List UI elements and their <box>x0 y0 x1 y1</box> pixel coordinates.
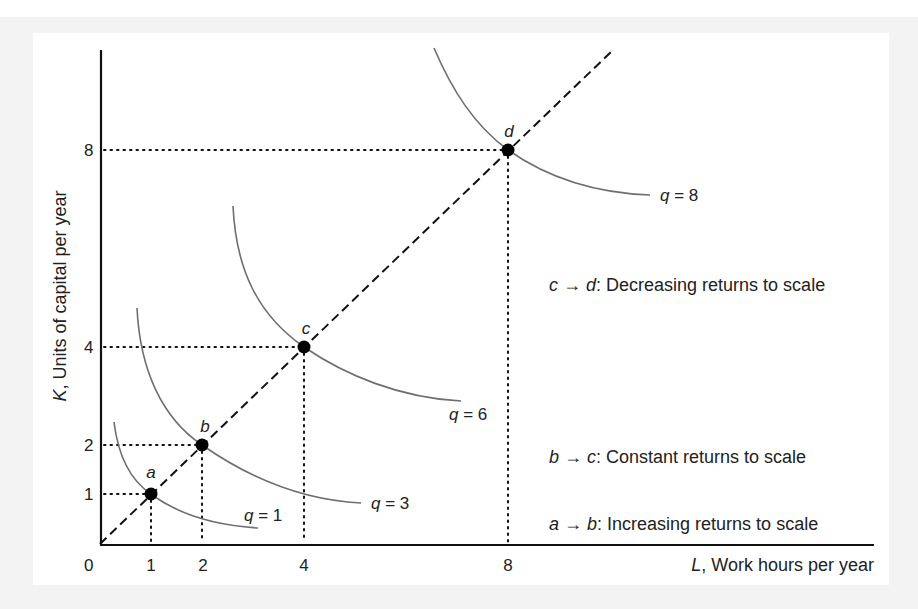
point-label-b: b <box>200 417 209 436</box>
x-tick-4: 4 <box>299 556 308 575</box>
point-d <box>502 144 515 157</box>
y-axis-title: K, Units of capital per year <box>50 190 70 401</box>
point-label-c: c <box>302 319 311 338</box>
axes <box>100 50 874 545</box>
point-a <box>145 488 158 501</box>
point-b <box>196 439 209 452</box>
isoquant-q1 <box>114 422 258 528</box>
x-axis-title: L, Work hours per year <box>691 555 874 575</box>
isoquant-chart: a b c d q = 1 q = 3 q = 6 q = 8 0 1 2 4 … <box>0 0 918 609</box>
isoquant-q3 <box>137 308 361 503</box>
isoquant-q8 <box>434 48 650 195</box>
isoquant-label-q3: q = 3 <box>371 494 409 513</box>
y-tick-2: 2 <box>84 436 93 455</box>
point-label-d: d <box>504 122 514 141</box>
annotation-a-to-b: a → b: Increasing returns to scale <box>549 514 818 534</box>
point-label-a: a <box>146 463 155 482</box>
y-tick-4: 4 <box>84 338 93 357</box>
x-tick-0: 0 <box>84 556 93 575</box>
isoquant-label-q6: q = 6 <box>449 405 487 424</box>
isoquant-label-q8: q = 8 <box>660 186 698 205</box>
y-tick-8: 8 <box>84 141 93 160</box>
annotation-c-to-d: c → d: Decreasing returns to scale <box>549 275 825 295</box>
x-tick-8: 8 <box>503 556 512 575</box>
expansion-ray <box>100 50 613 544</box>
y-tick-1: 1 <box>84 485 93 504</box>
points <box>145 144 515 501</box>
annotation-b-to-c: b → c: Constant returns to scale <box>549 447 806 467</box>
x-tick-1: 1 <box>146 556 155 575</box>
isoquant-label-q1: q = 1 <box>244 506 282 525</box>
isoquant-q6 <box>233 206 461 401</box>
point-c <box>298 341 311 354</box>
x-tick-2: 2 <box>198 556 207 575</box>
